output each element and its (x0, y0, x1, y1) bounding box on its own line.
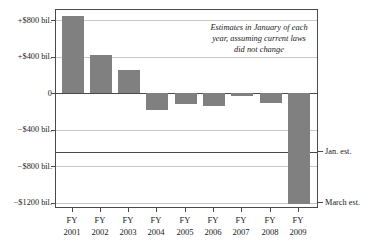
bar-fy2001 (62, 16, 84, 93)
y-tick-label-neg1200: −$1200 bil. (0, 199, 52, 207)
y-tick-label-400: +$400 bil. (0, 53, 52, 61)
jan-est-line (56, 152, 317, 153)
chart-note-line-3: did not change (184, 44, 334, 55)
gridline-neg1200 (56, 203, 317, 204)
bar-fy2005 (175, 93, 197, 104)
y-tick-label-800: +$800 bil. (0, 17, 52, 25)
bar-fy2009 (288, 93, 310, 204)
x-tick-mark-fy2005 (185, 208, 186, 212)
chart-note-line-2: year, assuming current laws (184, 33, 334, 44)
bar-fy2008 (260, 93, 282, 103)
x-tick-mark-fy2003 (128, 208, 129, 212)
chart-figure: +$800 bil. +$400 bil. 0 −$400 bil. −$800… (0, 0, 369, 245)
y-tick-label-neg400: −$400 bil. (0, 126, 52, 134)
x-tick-mark-fy2008 (270, 208, 271, 212)
gridline-neg400 (56, 130, 317, 131)
bar-fy2004 (146, 93, 168, 110)
chart-note-line-1: Estimates in January of each (184, 22, 334, 33)
jan-est-tick-mark (318, 151, 323, 152)
bar-fy2007 (231, 93, 253, 96)
x-tick-mark-fy2004 (156, 208, 157, 212)
gridline-neg800 (56, 166, 317, 167)
bar-fy2006 (203, 93, 225, 106)
jan-est-label: Jan. est. (325, 148, 352, 156)
x-tick-mark-fy2007 (241, 208, 242, 212)
gridline-800 (56, 20, 317, 21)
y-tick-label-0: 0 (0, 90, 52, 98)
x-tick-label-fy2009-prefix: FY (278, 215, 318, 227)
march-est-tick-mark (318, 202, 323, 203)
x-tick-label-fy2009-year: 2009 (278, 227, 318, 239)
x-tick-mark-fy2001 (72, 208, 73, 212)
x-tick-mark-fy2009 (298, 208, 299, 212)
chart-note: Estimates in January of each year, assum… (184, 22, 334, 56)
bar-fy2002 (90, 55, 112, 93)
x-tick-mark-fy2006 (213, 208, 214, 212)
plot-area: Estimates in January of each year, assum… (55, 9, 318, 208)
march-est-label: March est. (325, 199, 360, 207)
x-tick-label-fy2009: FY 2009 (278, 215, 318, 238)
y-tick-label-neg800: −$800 bil. (0, 163, 52, 171)
x-tick-mark-fy2002 (100, 208, 101, 212)
bar-fy2003 (118, 70, 140, 93)
